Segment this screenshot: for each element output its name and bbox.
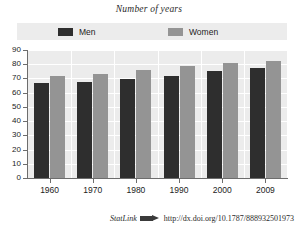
legend-entry-women: Women <box>168 23 218 40</box>
bar-group <box>201 50 244 178</box>
legend-swatch-men-icon <box>58 28 73 36</box>
x-axis-labels: 196019701980199020002009 <box>28 185 287 199</box>
y-axis-tick-label: 90 <box>1 45 21 54</box>
legend-label-men: Men <box>79 27 96 37</box>
x-axis-tick <box>179 179 180 183</box>
statlink-url[interactable]: http://dx.doi.org/10.1787/888932501973 <box>164 214 294 223</box>
y-axis-tick-label: 30 <box>1 130 21 139</box>
bar-men-1970 <box>77 82 92 178</box>
x-axis-tick <box>93 179 94 183</box>
x-axis-tick-label: 1990 <box>157 185 201 195</box>
y-axis-labels: 0102030405060708090 <box>0 50 21 178</box>
bar-women-1970 <box>93 74 108 178</box>
y-axis-tick <box>23 78 27 79</box>
y-axis-tick <box>23 64 27 65</box>
y-axis-tick-label: 80 <box>1 59 21 68</box>
bar-women-2009 <box>266 61 281 178</box>
y-axis-tick <box>23 107 27 108</box>
x-axis-tick <box>50 179 51 183</box>
legend-label-women: Women <box>189 27 218 37</box>
y-axis-tick-label: 40 <box>1 116 21 125</box>
bar-group <box>114 50 157 178</box>
bar-men-1960 <box>34 83 49 178</box>
x-axis-tick <box>265 179 266 183</box>
y-axis-tick <box>23 150 27 151</box>
legend-entry-men: Men <box>58 23 96 40</box>
y-axis-tick-label: 60 <box>1 88 21 97</box>
bar-men-1980 <box>120 79 135 178</box>
bar-men-1990 <box>164 76 179 178</box>
plot-area <box>28 50 287 178</box>
bar-women-1980 <box>136 70 151 178</box>
plot-wrapper: 0102030405060708090 19601970198019902000… <box>0 44 298 194</box>
x-axis-tick <box>222 179 223 183</box>
y-axis-tick-label: 0 <box>1 173 21 182</box>
statlink-footer: StatLink http://dx.doi.org/10.1787/88893… <box>0 211 298 225</box>
bar-group <box>28 50 71 178</box>
bar-men-2000 <box>207 71 222 178</box>
chart-legend: Men Women <box>17 23 287 40</box>
y-axis-tick <box>23 164 27 165</box>
x-axis-tick <box>136 179 137 183</box>
y-axis-tick <box>23 50 27 51</box>
chart-figure: Number of years Men Women 01020304050607… <box>0 0 298 233</box>
y-axis-tick-label: 10 <box>1 159 21 168</box>
chart-title: Number of years <box>0 4 298 14</box>
y-axis-tick-label: 50 <box>1 102 21 111</box>
x-axis-tick-label: 1960 <box>28 185 72 195</box>
bar-group <box>158 50 201 178</box>
y-axis-tick <box>23 135 27 136</box>
x-axis-tick-label: 2009 <box>243 185 287 195</box>
x-axis-ticks <box>28 179 287 183</box>
x-axis-tick-label: 1970 <box>71 185 115 195</box>
bar-men-2009 <box>250 68 265 178</box>
x-axis-tick-label: 1980 <box>114 185 158 195</box>
bar-women-1990 <box>180 66 195 178</box>
bar-group <box>71 50 114 178</box>
y-axis-tick <box>23 93 27 94</box>
bar-group <box>244 50 287 178</box>
statlink-arrow-icon <box>140 215 160 222</box>
bar-women-1960 <box>50 76 65 178</box>
bar-women-2000 <box>223 63 238 178</box>
y-axis-tick-label: 70 <box>1 73 21 82</box>
statlink-label: StatLink <box>110 214 137 223</box>
y-axis-tick-label: 20 <box>1 145 21 154</box>
y-axis-tick <box>23 121 27 122</box>
x-axis-tick-label: 2000 <box>200 185 244 195</box>
legend-swatch-women-icon <box>168 28 183 36</box>
y-axis-tick <box>23 178 27 179</box>
